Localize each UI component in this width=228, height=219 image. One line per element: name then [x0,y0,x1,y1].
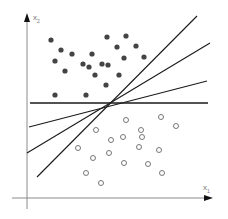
filled-point [52,92,57,97]
hollow-point [124,118,129,123]
hollow-point [84,171,89,176]
filled-point [141,54,146,59]
hollow-point [140,135,145,140]
hollow-point [94,128,99,133]
filled-point [58,47,63,52]
filled-point [123,33,128,38]
hollow-point [157,148,162,153]
filled-point [114,44,119,49]
filled-point [69,51,74,56]
filled-point [99,61,104,66]
filled-point [121,55,126,60]
y-axis-arrow-icon [24,13,30,22]
separating-line [37,16,197,177]
filled-points [48,33,146,97]
filled-point [104,34,109,39]
filled-point [52,58,57,63]
filled-point [103,82,108,87]
hollow-point [160,171,165,176]
hollow-point [146,162,151,167]
filled-point [133,43,138,48]
hollow-point [76,146,81,151]
filled-point [80,61,85,66]
hollow-point [122,161,127,166]
axes [12,13,213,209]
filled-point [62,68,67,73]
hollow-point [107,151,112,156]
hollow-point [174,124,179,129]
hollow-point [121,135,126,140]
y-axis-label: x2 [33,14,40,24]
x-axis-label: x1 [203,184,210,194]
hollow-point [159,115,164,120]
filled-point [116,72,121,77]
filled-point [105,62,110,67]
hollow-point [137,145,142,150]
classification-diagram [0,0,228,219]
filled-point [92,72,97,77]
x-axis-arrow-icon [204,195,213,201]
filled-point [48,37,53,42]
hollow-point [99,181,104,186]
hollow-point [91,156,96,161]
separating-line [29,81,207,127]
filled-point [89,51,94,56]
filled-point [83,92,88,97]
hollow-points [76,115,179,186]
filled-point [86,64,91,69]
hollow-point [139,128,144,133]
hollow-point [109,138,114,143]
